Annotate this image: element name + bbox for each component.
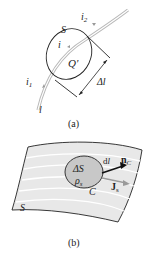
label-S-b: S: [20, 202, 25, 213]
diagram: S i2 i Q' i1 l Δl (a) ΔS ρs C dl: [0, 0, 154, 263]
surface-patch: [65, 156, 103, 188]
label-C: C: [89, 186, 96, 197]
figure-a: S i2 i Q' i1 l Δl (a): [26, 10, 128, 130]
label-l: l: [39, 104, 42, 115]
arrow-icon: [67, 45, 70, 48]
label-delta-S: ΔS: [72, 163, 84, 174]
label-delta-l: Δl: [96, 76, 106, 87]
label-Q: Q': [68, 57, 79, 69]
label-i: i: [58, 39, 61, 50]
label-i2: i2: [81, 11, 88, 24]
figure-b: ΔS ρs C dl nC Js S (b): [12, 142, 142, 249]
label-S: S: [61, 24, 66, 35]
label-i1: i1: [26, 76, 32, 89]
label-dl: dl: [103, 156, 111, 166]
caption-a: (a): [68, 118, 79, 130]
caption-b: (b): [68, 237, 80, 249]
arrow-icon: [92, 23, 96, 26]
wire-curve: [38, 10, 128, 110]
